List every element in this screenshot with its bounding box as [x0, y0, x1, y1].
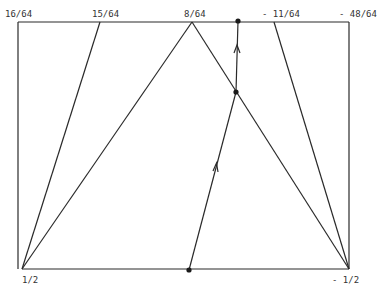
label-16-64: 16/64: [5, 9, 32, 19]
bottom-dot: [186, 267, 191, 272]
label-neg-48-64: - 48/64: [339, 9, 377, 19]
ray-right-neg-11-64: [274, 22, 349, 269]
label-15-64: 15/64: [92, 9, 119, 19]
label-bottom-left: 1/2: [22, 275, 38, 285]
label-8-64: 8/64: [184, 9, 206, 19]
diagram-canvas: 16/64 15/64 8/64 - 11/64 - 48/64 1/2 - 1…: [0, 0, 381, 296]
ray-left-8-64: [22, 22, 192, 269]
path-mid-to-top: [236, 21, 238, 92]
ray-right-8-64: [192, 22, 349, 269]
label-neg-11-64: - 11/64: [262, 9, 300, 19]
top-dot: [235, 18, 240, 23]
path-bottom-to-mid: [189, 92, 236, 270]
label-bottom-right: - 1/2: [332, 275, 359, 285]
ray-left-15-64: [22, 22, 100, 269]
mid-dot: [233, 89, 238, 94]
